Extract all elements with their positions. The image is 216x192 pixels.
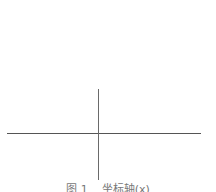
horizontal-axis-line [7,133,201,134]
caption-text: 坐标轴(x) [102,183,150,192]
figure-number: 图 1 [66,183,88,192]
figure-caption: 图 1坐标轴(x) [0,183,216,192]
diagram-canvas: 图 1坐标轴(x) [0,0,216,192]
vertical-axis-line [98,89,99,180]
